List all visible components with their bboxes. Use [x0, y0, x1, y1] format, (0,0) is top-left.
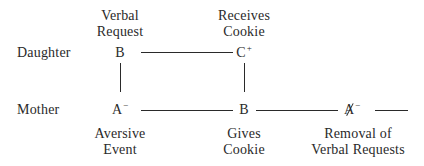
caption-line: Verbal — [50, 8, 190, 24]
node-superscript: − — [123, 100, 128, 110]
caption-line: Removal of — [288, 126, 424, 142]
caption-removal-of-verbal-requests: Removal of Verbal Requests — [288, 126, 424, 158]
node-daughter-behavior: B — [105, 45, 135, 61]
connector-removal-trailing — [375, 110, 408, 111]
node-mother-antecedent: A− — [105, 102, 135, 119]
connector-behavior-to-consequence — [141, 52, 233, 53]
node-superscript: + — [247, 43, 252, 53]
row-label-mother: Mother — [17, 102, 59, 118]
node-daughter-consequence: C+ — [229, 45, 259, 62]
node-letter-struck: A — [344, 102, 354, 118]
caption-line: Verbal Requests — [288, 142, 424, 158]
connector-cookie-to-gives — [244, 63, 245, 92]
caption-line: Request — [50, 24, 190, 40]
connector-request-to-aversive — [120, 63, 121, 92]
caption-line: Event — [50, 142, 190, 158]
caption-line: Cookie — [174, 24, 314, 40]
connector-gives-to-removal — [256, 110, 338, 111]
caption-receives-cookie: Receives Cookie — [174, 8, 314, 40]
node-letter: C — [236, 45, 245, 60]
caption-line: Receives — [174, 8, 314, 24]
node-mother-behavior: B — [229, 102, 259, 118]
node-letter: B — [115, 45, 124, 60]
node-superscript: − — [355, 100, 360, 110]
node-mother-removal: A− — [337, 102, 367, 119]
row-label-daughter: Daughter — [17, 45, 71, 61]
caption-aversive-event: Aversive Event — [50, 126, 190, 158]
caption-verbal-request: Verbal Request — [50, 8, 190, 40]
node-letter: A — [112, 102, 122, 117]
connector-aversive-to-gives — [141, 110, 233, 111]
caption-line: Aversive — [50, 126, 190, 142]
node-letter: B — [239, 102, 248, 117]
